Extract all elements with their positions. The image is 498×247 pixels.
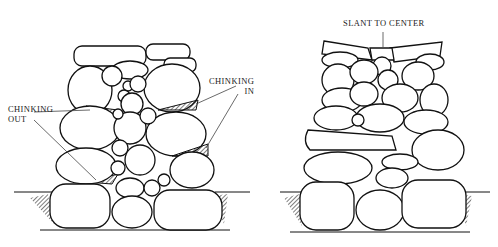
label-chinking-in: CHINKING IN [209, 76, 254, 96]
label-line: OUT [8, 114, 53, 124]
label-line: CHINKING [8, 104, 53, 114]
label-line: CHINKING [209, 76, 254, 86]
label-chinking-out: CHINKING OUT [8, 104, 53, 124]
wall-drawings [0, 0, 498, 247]
stone-wall-diagram: CHINKING OUT CHINKING IN SLANT TO CENTER [0, 0, 498, 247]
left-wall [14, 44, 250, 230]
label-line: IN [209, 86, 254, 96]
right-wall [280, 32, 490, 232]
label-slant-to-center: SLANT TO CENTER [343, 18, 425, 28]
